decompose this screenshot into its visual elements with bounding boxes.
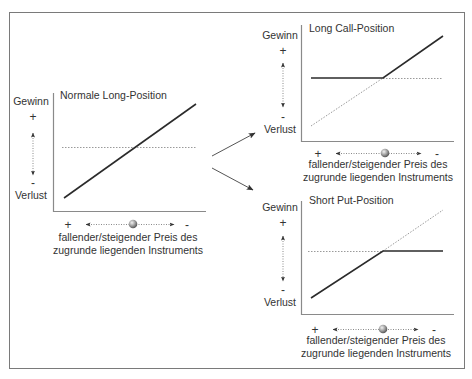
axes bbox=[302, 25, 455, 142]
y-minus-sign: - bbox=[281, 283, 285, 297]
panel-title: Normale Long-Position bbox=[60, 89, 167, 101]
panel-title: Long Call-Position bbox=[309, 22, 394, 34]
panel-short-put: Short Put-Position Gewinn + - Verlust + … bbox=[262, 194, 454, 359]
y-axis-top-label: Gewinn bbox=[262, 29, 298, 41]
x-axis-label-line1: fallender/steigender Preis des bbox=[309, 158, 448, 170]
x-minus-sign: - bbox=[185, 218, 189, 232]
ball-marker-icon bbox=[129, 220, 138, 229]
y-plus-sign: + bbox=[279, 216, 286, 230]
payoff-line bbox=[64, 104, 196, 198]
y-minus-sign: - bbox=[31, 176, 35, 190]
x-axis-label-line2: zugrunde liegenden Instruments bbox=[301, 347, 451, 359]
panel-title: Short Put-Position bbox=[309, 194, 394, 206]
axes bbox=[54, 93, 207, 212]
x-axis-label-line1: fallender/steigender Preis des bbox=[59, 231, 198, 243]
underlying-payoff-dotted bbox=[311, 78, 383, 126]
y-axis-top-label: Gewinn bbox=[262, 201, 298, 213]
y-plus-sign: + bbox=[29, 110, 36, 124]
x-axis-label-line2: zugrunde liegenden Instruments bbox=[53, 244, 203, 256]
y-axis-bottom-label: Verlust bbox=[264, 123, 296, 135]
x-axis-label-line1: fallender/steigender Preis des bbox=[307, 334, 446, 346]
underlying-payoff-dotted bbox=[383, 210, 443, 251]
y-axis-top-label: Gewinn bbox=[13, 95, 49, 107]
ball-marker-icon bbox=[379, 325, 388, 334]
y-plus-sign: + bbox=[279, 44, 286, 58]
arrow-to-short-put-icon bbox=[212, 168, 253, 190]
y-axis-bottom-label: Verlust bbox=[15, 189, 47, 201]
panel-long-position: Normale Long-Position Gewinn + - Verlust… bbox=[13, 89, 206, 256]
y-axis-bottom-label: Verlust bbox=[264, 296, 296, 308]
payoff-diagram: Normale Long-Position Gewinn + - Verlust… bbox=[0, 0, 472, 379]
x-plus-sign: + bbox=[64, 218, 71, 232]
payoff-line bbox=[311, 251, 443, 298]
payoff-line bbox=[311, 36, 443, 78]
arrow-to-long-call-icon bbox=[212, 133, 255, 156]
y-minus-sign: - bbox=[281, 110, 285, 124]
ball-marker-icon bbox=[381, 149, 390, 158]
x-axis-label-line2: zugrunde liegenden Instruments bbox=[303, 171, 453, 183]
panel-long-call: Long Call-Position Gewinn + - Verlust + … bbox=[262, 22, 454, 183]
